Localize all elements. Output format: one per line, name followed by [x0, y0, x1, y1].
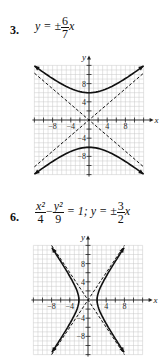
equation: y = ±67x	[35, 15, 74, 40]
y-axis-label: y	[81, 55, 86, 62]
y-tick-label: 8	[82, 80, 86, 89]
x-tick-label: 4	[105, 122, 109, 131]
y-axis-label: y	[80, 235, 85, 242]
fraction: 67	[61, 15, 69, 40]
fraction-y2-9: y²9	[53, 200, 64, 225]
x-tick-label: 8	[122, 302, 126, 311]
x-tick-label: 8	[123, 122, 127, 131]
y-tick-label: 8	[81, 260, 85, 269]
x-axis-arrow-icon	[150, 118, 154, 122]
x-tick-label: −4	[67, 122, 76, 131]
x-axis-label: x	[154, 115, 159, 125]
eq-suffix: x	[69, 19, 74, 33]
x-tick-label: 4	[104, 302, 108, 311]
x-tick-label: −8	[47, 302, 56, 311]
x-axis-arrow-icon	[149, 298, 153, 302]
eq-prefix: y = ±	[35, 19, 61, 33]
axes: xy−8−44884−4−8	[32, 55, 158, 177]
y-tick-label: −8	[76, 332, 85, 341]
y-axis-arrow-icon	[86, 235, 90, 239]
x-tick-label: −4	[66, 302, 75, 311]
x-axis-label: x	[153, 295, 158, 305]
y-tick-label: 4	[81, 278, 85, 287]
y-axis-arrow-icon	[87, 55, 91, 59]
equation: x²4−y²9 = 1; y = ±32x	[35, 200, 130, 225]
y-tick-label: −8	[77, 152, 86, 161]
problem-number: 6.	[10, 210, 19, 225]
fraction-3-2: 32	[117, 200, 125, 225]
y-tick-label: 4	[82, 98, 86, 107]
fraction-x2-4: x²4	[35, 200, 46, 225]
graph-problem-3: xy−8−44884−4−8	[0, 55, 164, 185]
axes: xy−8−44884−4−8	[31, 235, 157, 357]
y-tick-label: −4	[77, 134, 86, 143]
graph-problem-6: xy−8−44884−4−8	[0, 235, 164, 364]
x-tick-label: −8	[48, 122, 57, 131]
problem-number: 3.	[10, 23, 19, 38]
